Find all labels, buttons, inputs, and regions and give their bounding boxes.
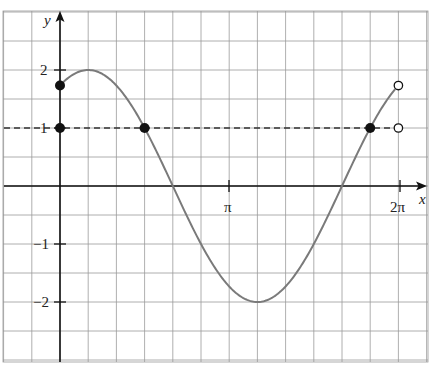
tick-label-ym2: −2 — [33, 294, 49, 310]
tick-label-y1: 1 — [40, 120, 48, 136]
y-axis-label: y — [42, 12, 51, 28]
background — [0, 0, 434, 370]
open-point — [394, 81, 402, 89]
tick-label-ym1: −1 — [33, 236, 49, 252]
tick-label-2pi: 2π — [390, 199, 406, 215]
function-graph: y x π 2π 2 1 −1 −2 — [0, 0, 434, 370]
filled-point — [365, 123, 375, 133]
tick-label-y2: 2 — [40, 62, 48, 78]
tick-label-pi: π — [224, 199, 232, 215]
x-axis-label: x — [418, 191, 426, 207]
filled-point — [55, 81, 65, 91]
open-point — [394, 124, 402, 132]
filled-point — [55, 123, 65, 133]
filled-point — [140, 123, 150, 133]
